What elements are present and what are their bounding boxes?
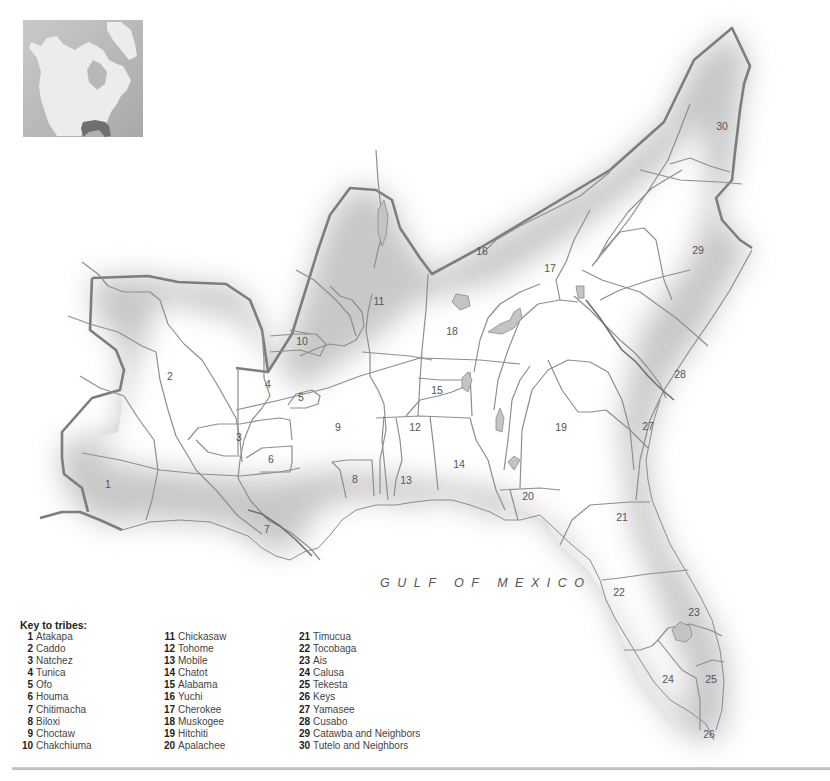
key-item-24: 24Calusa: [298, 667, 420, 679]
region-label-21: 21: [616, 511, 628, 523]
key-item-name: Catawba and Neighbors: [313, 728, 420, 739]
key-item-27: 27Yamasee: [298, 704, 420, 716]
key-item-number: 22: [298, 643, 310, 655]
key-item-number: 25: [298, 679, 310, 691]
key-item-10: 10Chakchiuma: [20, 740, 92, 752]
key-item-name: Mobile: [178, 655, 207, 666]
key-item-number: 7: [20, 704, 33, 716]
key-item-name: Biloxi: [36, 716, 60, 727]
key-item-name: Chakchiuma: [36, 740, 92, 751]
key-item-name: Choctaw: [36, 728, 75, 739]
key-item-20: 20Apalachee: [163, 740, 226, 752]
key-item-name: Tohome: [178, 643, 214, 654]
key-item-28: 28Cusabo: [298, 716, 420, 728]
key-item-number: 13: [163, 655, 175, 667]
region-label-26: 26: [703, 728, 715, 740]
key-item-7: 7Chitimacha: [20, 704, 92, 716]
key-item-number: 17: [163, 704, 175, 716]
tribes-key: Key to tribes: 1Atakapa2Caddo3Natchez4Tu…: [20, 619, 440, 755]
key-item-name: Timucua: [313, 631, 351, 642]
key-item-name: Chatot: [178, 667, 207, 678]
key-item-18: 18Muskogee: [163, 716, 226, 728]
key-item-17: 17Cherokee: [163, 704, 226, 716]
region-label-19: 19: [555, 421, 567, 433]
gulf-of-mexico-label: GULF OF MEXICO: [380, 576, 592, 590]
key-item-22: 22Tocobaga: [298, 643, 420, 655]
key-item-number: 4: [20, 667, 33, 679]
key-item-name: Alabama: [178, 679, 217, 690]
key-item-name: Chickasaw: [178, 631, 226, 642]
key-item-number: 21: [298, 631, 310, 643]
region-label-28: 28: [674, 368, 686, 380]
key-item-14: 14Chatot: [163, 667, 226, 679]
key-item-number: 15: [163, 679, 175, 691]
region-label-20: 20: [522, 490, 534, 502]
region-label-8: 8: [352, 473, 358, 485]
key-item-number: 1: [20, 631, 33, 643]
key-item-number: 12: [163, 643, 175, 655]
key-item-name: Cherokee: [178, 704, 221, 715]
key-item-number: 9: [20, 728, 33, 740]
key-item-number: 8: [20, 716, 33, 728]
key-item-13: 13Mobile: [163, 655, 226, 667]
region-label-3: 3: [236, 431, 242, 443]
region-label-25: 25: [705, 673, 717, 685]
region-label-18: 18: [446, 325, 458, 337]
key-item-name: Muskogee: [178, 716, 224, 727]
greenland: [107, 22, 137, 60]
region-label-2: 2: [167, 370, 173, 382]
key-item-name: Ofo: [36, 679, 52, 690]
key-item-16: 16Yuchi: [163, 691, 226, 703]
key-item-12: 12Tohome: [163, 643, 226, 655]
region-label-17: 17: [544, 262, 556, 274]
key-item-number: 2: [20, 643, 33, 655]
region-label-11: 11: [374, 295, 385, 307]
key-item-number: 20: [163, 740, 175, 752]
key-item-name: Hitchiti: [178, 728, 208, 739]
region-label-12: 12: [409, 421, 421, 433]
key-item-25: 25Tekesta: [298, 679, 420, 691]
key-item-name: Cusabo: [313, 716, 347, 727]
key-item-number: 27: [298, 704, 310, 716]
key-item-21: 21Timucua: [298, 631, 420, 643]
key-item-name: Yuchi: [178, 691, 202, 702]
key-column-2: 11Chickasaw12Tohome13Mobile14Chatot15Ala…: [163, 631, 226, 752]
key-title: Key to tribes:: [20, 619, 440, 631]
key-item-8: 8Biloxi: [20, 716, 92, 728]
key-item-number: 10: [20, 740, 33, 752]
key-item-number: 16: [163, 691, 175, 703]
key-item-number: 19: [163, 728, 175, 740]
key-item-number: 26: [298, 691, 310, 703]
region-label-6: 6: [268, 453, 274, 465]
key-item-name: Tutelo and Neighbors: [313, 740, 408, 751]
key-item-26: 26Keys: [298, 691, 420, 703]
north-america-landmass: [29, 36, 131, 136]
bottom-divider: [12, 767, 830, 770]
key-item-number: 18: [163, 716, 175, 728]
key-item-name: Apalachee: [178, 740, 225, 751]
key-item-number: 24: [298, 667, 310, 679]
key-item-name: Houma: [36, 691, 68, 702]
region-label-30: 30: [716, 120, 728, 132]
key-item-name: Atakapa: [36, 631, 73, 642]
key-column-3: 21Timucua22Tocobaga23Ais24Calusa25Tekest…: [298, 631, 420, 752]
key-item-name: Chitimacha: [36, 704, 86, 715]
key-item-name: Tocobaga: [313, 643, 356, 654]
key-item-29: 29Catawba and Neighbors: [298, 728, 420, 740]
key-item-name: Yamasee: [313, 704, 355, 715]
key-item-number: 3: [20, 655, 33, 667]
region-label-9: 9: [335, 421, 341, 433]
key-columns: 1Atakapa2Caddo3Natchez4Tunica5Ofo6Houma7…: [20, 631, 440, 755]
key-item-number: 23: [298, 655, 310, 667]
north-america-inset-map: [23, 20, 143, 137]
region-label-7: 7: [264, 523, 270, 535]
key-item-number: 5: [20, 679, 33, 691]
key-item-6: 6Houma: [20, 691, 92, 703]
key-item-9: 9Choctaw: [20, 728, 92, 740]
key-item-number: 11: [163, 631, 175, 643]
key-item-4: 4Tunica: [20, 667, 92, 679]
key-item-5: 5Ofo: [20, 679, 92, 691]
key-item-2: 2Caddo: [20, 643, 92, 655]
key-item-name: Calusa: [313, 667, 344, 678]
region-label-23: 23: [688, 606, 700, 618]
